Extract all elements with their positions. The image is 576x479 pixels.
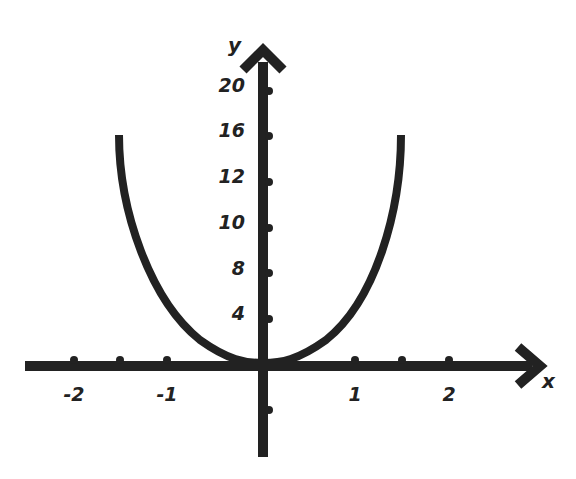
y-axis-label: y [228, 33, 242, 57]
x-axis [25, 347, 540, 385]
y-tick-label-20: 20 [219, 74, 245, 96]
x-tick-label-neg2: -2 [63, 383, 84, 405]
y-tick-label-16: 16 [219, 119, 245, 141]
x-axis-label: x [541, 369, 556, 393]
y-tick-label-12: 12 [219, 165, 245, 187]
x-tick-label-2: 2 [442, 383, 455, 405]
y-tick-label-4: 4 [231, 302, 245, 324]
function-graph: y x 20 16 12 10 8 4 -2 -1 1 2 [0, 0, 576, 479]
y-tick-label-10: 10 [219, 211, 245, 233]
y-axis [243, 50, 283, 457]
y-tick-labels: 20 16 12 10 8 4 [219, 74, 245, 324]
x-tick-label-1: 1 [348, 383, 361, 405]
x-tick-label-neg1: -1 [156, 383, 177, 405]
y-tick-label-8: 8 [232, 257, 245, 279]
